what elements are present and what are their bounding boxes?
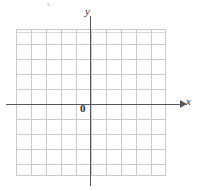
graph-paper-grid (16, 29, 166, 176)
y-axis-line (90, 16, 91, 186)
origin-label: 0 (80, 103, 86, 114)
y-axis-label: y (85, 6, 90, 17)
x-axis-label: x (186, 96, 191, 107)
image-speck-artifact (47, 3, 50, 6)
x-axis-line (6, 104, 182, 105)
grid-border (16, 29, 166, 176)
coordinate-grid-figure: y x 0 (0, 0, 197, 191)
